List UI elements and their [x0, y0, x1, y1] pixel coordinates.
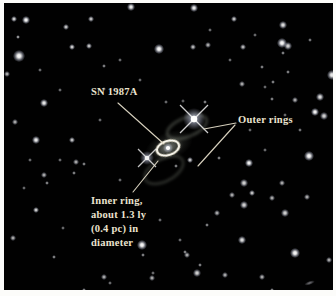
sn-core: [166, 146, 170, 150]
inner-ring-label: Inner ring, about 1.3 ly (0.4 pc) in dia…: [91, 194, 146, 250]
leader-line: [198, 125, 235, 166]
leader-line: [118, 103, 164, 144]
figure-sn1987a: SN 1987A Outer rings Inner ring, about 1…: [0, 0, 336, 296]
annotation-layer: [4, 3, 333, 290]
photo-layer: SN 1987A Outer rings Inner ring, about 1…: [4, 3, 333, 290]
bright-star-with-spikes: [138, 149, 156, 167]
outer-rings-label: Outer rings: [238, 113, 293, 127]
inner-ring-label-line3: (0.4 pc) in: [91, 222, 146, 236]
inner-ring-label-line1: Inner ring,: [91, 194, 146, 208]
leader-line: [204, 123, 236, 129]
sn1987a-label: SN 1987A: [91, 85, 138, 99]
inner-ring-label-line4: diameter: [91, 236, 146, 250]
leader-line: [133, 161, 158, 192]
space-photograph: SN 1987A Outer rings Inner ring, about 1…: [4, 3, 333, 290]
inner-ring-label-line2: about 1.3 ly: [91, 208, 146, 222]
